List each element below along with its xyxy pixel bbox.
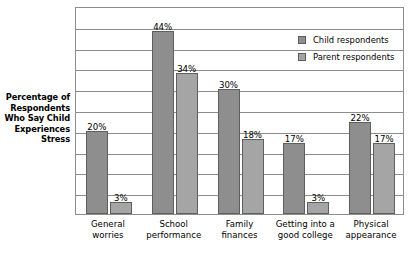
y-axis-title: Percentage of Respondents Who Say Child … [0,92,70,145]
bar-parent [110,202,132,214]
legend-label: Child respondents [311,34,391,46]
bar-value-label: 17% [280,134,308,144]
x-axis-label: Schoolperformance [141,219,207,241]
bar-parent [242,139,264,214]
x-axis-label: Familyfinances [207,219,273,241]
x-axis-label-line: performance [141,230,207,241]
bar-value-label: 44% [149,22,177,32]
x-axis-label-line: worries [75,230,141,241]
bar-value-label: 18% [239,130,267,140]
legend-swatch-icon [298,36,306,44]
plot-area: 20%3%44%34%30%18%17%3%22%17% Child respo… [75,7,404,215]
bar-child [86,131,108,214]
y-axis-title-line: Stress [0,134,70,145]
legend-swatch-icon [298,53,306,61]
x-axis-labels: GeneralworriesSchoolperformanceFamilyfin… [75,219,404,253]
bar-child [152,31,174,214]
chart-legend: Child respondents Parent respondents [298,33,405,67]
x-axis-label-line: finances [207,230,273,241]
legend-item-parent: Parent respondents [298,50,405,64]
x-axis-label-line: good college [272,230,338,241]
bar-chart: Percentage of Respondents Who Say Child … [0,0,415,258]
bar-parent [373,143,395,214]
bar-child [283,143,305,214]
bar-parent [176,73,198,214]
bar-value-label: 17% [370,134,398,144]
bar-value-label: 3% [107,193,135,203]
bar-value-label: 34% [173,64,201,74]
x-axis-label: Physicalappearance [338,219,404,241]
bar-child [349,122,371,214]
x-axis-label-line: School [141,219,207,230]
x-axis-label: Getting into agood college [272,219,338,241]
x-axis-label-line: Family [207,219,273,230]
bar-parent [307,202,329,214]
bar-value-label: 30% [215,80,243,90]
x-axis-label: Generalworries [75,219,141,241]
x-axis-label-line: appearance [338,230,404,241]
bar-value-label: 3% [304,193,332,203]
bar-value-label: 22% [346,113,374,123]
legend-label: Parent respondents [311,51,396,63]
x-axis-label-line: Physical [338,219,404,230]
legend-item-child: Child respondents [298,33,405,47]
y-axis-title-line: Who Say Child [0,113,70,124]
y-axis-title-line: Experiences [0,124,70,135]
bar-child [218,89,240,214]
x-axis-label-line: Getting into a [272,219,338,230]
y-axis-title-line: Respondents [0,103,70,114]
x-axis-label-line: General [75,219,141,230]
bar-value-label: 20% [83,122,111,132]
y-axis-title-line: Percentage of [0,92,70,103]
